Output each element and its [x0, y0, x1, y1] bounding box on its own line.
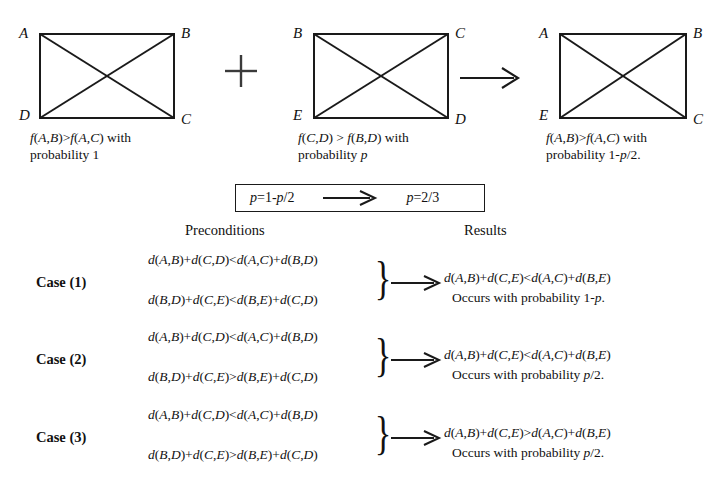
graph-right-label-bottom-right: C [693, 112, 703, 127]
case-result-1: d(A,B)+d(C,E)<d(A,C)+d(B,E) [444, 347, 611, 363]
case-brace: } [375, 333, 392, 379]
case-label: Case (2) [36, 351, 86, 368]
case-label: Case (3) [36, 429, 86, 446]
graph-left-caption-line2: probability 1 [30, 147, 99, 163]
right-arrow-icon [458, 62, 524, 98]
graph-right-caption-line1: f(A,B)>f(A,C) with [546, 130, 647, 146]
case-arrow-drawing [390, 429, 444, 447]
header-preconditions: Preconditions [185, 222, 265, 239]
case-precondition-1: d(A,B)+d(C,D)<d(A,C)+d(B,D) [148, 252, 318, 268]
graph-right-label-top-right: B [693, 26, 702, 41]
graph-right-label-bottom-left: E [539, 108, 548, 123]
graph-left-caption-line1: f(A,B)>f(A,C) with [30, 130, 131, 146]
graph-left: A B D C [38, 32, 176, 120]
graph-left-label-bottom-right: C [181, 112, 191, 127]
graph-right-drawing [558, 32, 688, 120]
case-arrow-drawing [390, 351, 444, 369]
case-result-1: d(A,B)+d(C,E)>d(A,C)+d(B,E) [444, 425, 611, 441]
graph-left-drawing [38, 32, 176, 120]
graph-middle: B C E D [312, 32, 450, 120]
case-arrow-icon [390, 351, 444, 373]
case-row: Case (1) d(A,B)+d(C,D)<d(A,C)+d(B,D) d(B… [0, 248, 728, 322]
graph-middle-label-bottom-left: E [293, 108, 302, 123]
right-arrow-icon-drawing [458, 62, 524, 94]
graph-left-caption-line1-text: f(A,B)>f(A,C) with [30, 130, 131, 145]
equation-arrow-drawing [322, 190, 380, 206]
case-result-1: d(A,B)+d(C,E)<d(A,C)+d(B,E) [444, 270, 611, 286]
graph-left-label-bottom-left: D [19, 108, 30, 123]
graph-middle-label-top-left: B [293, 26, 302, 41]
case-precondition-2: d(B,D)+d(C,E)>d(B,E)+d(C,D) [148, 369, 318, 385]
graph-middle-label-top-right: C [455, 26, 465, 41]
case-arrow-icon [390, 274, 444, 296]
case-precondition-1: d(A,B)+d(C,D)<d(A,C)+d(B,D) [148, 329, 318, 345]
plus-icon-drawing [222, 52, 260, 90]
header-results: Results [464, 222, 507, 239]
graph-middle-drawing [312, 32, 450, 120]
case-result-2: Occurs with probability p/2. [452, 445, 604, 461]
case-result-2: Occurs with probability 1-p. [452, 290, 605, 306]
graph-middle-caption-line2-text: probability p [298, 147, 367, 162]
graph-right-label-top-left: A [539, 26, 548, 41]
case-precondition-1: d(A,B)+d(C,D)<d(A,C)+d(B,D) [148, 407, 318, 423]
case-result-2: Occurs with probability p/2. [452, 367, 604, 383]
graph-left-label-top-right: B [181, 26, 190, 41]
equation-box: p=1-p/2 p=2/3 [235, 184, 485, 212]
case-label: Case (1) [36, 274, 86, 291]
plus-icon [222, 52, 260, 94]
graph-left-caption-line2-text: probability 1 [30, 147, 99, 162]
graph-right-caption-line2-text: probability 1-p/2. [546, 147, 641, 162]
graph-right-caption-line2: probability 1-p/2. [546, 147, 641, 163]
case-brace: } [375, 411, 392, 457]
graph-middle-caption-line1: f(C,D) > f(B,D) with [298, 130, 409, 146]
equation-arrow-icon [322, 190, 380, 206]
graph-middle-caption-line1-text: f(C,D) > f(B,D) with [298, 130, 409, 145]
figure-row: A B D C f(A,B)>f(A,C) with probability 1… [0, 0, 728, 180]
graph-left-label-top-left: A [19, 26, 28, 41]
graph-middle-label-bottom-right: D [455, 112, 466, 127]
graph-right-caption-line1-text: f(A,B)>f(A,C) with [546, 130, 647, 145]
case-precondition-2: d(B,D)+d(C,E)>d(B,E)+d(C,D) [148, 447, 318, 463]
equation-right-side: p=2/3 [406, 190, 439, 206]
case-brace: } [375, 256, 392, 302]
case-arrow-drawing [390, 274, 444, 292]
equation-left-side: p=1-p/2 [250, 190, 294, 206]
graph-middle-caption-line2: probability p [298, 147, 367, 163]
case-row: Case (3) d(A,B)+d(C,D)<d(A,C)+d(B,D) d(B… [0, 403, 728, 477]
case-precondition-2: d(B,D)+d(C,E)<d(B,E)+d(C,D) [148, 292, 318, 308]
case-arrow-icon [390, 429, 444, 451]
case-row: Case (2) d(A,B)+d(C,D)<d(A,C)+d(B,D) d(B… [0, 325, 728, 399]
graph-right: A B E C [558, 32, 688, 120]
